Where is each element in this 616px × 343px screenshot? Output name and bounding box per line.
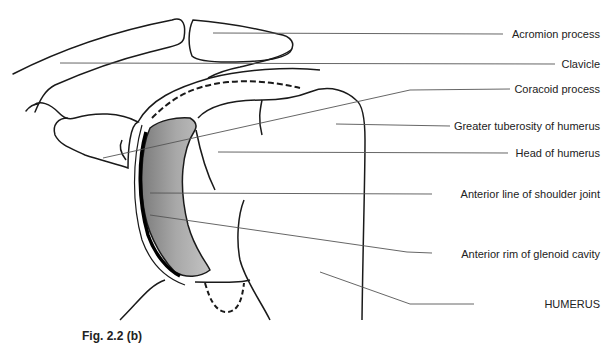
label-humerus: HUMERUS [544, 298, 600, 310]
leader-lines [60, 33, 555, 304]
label-anterior-line-shoulder-joint: Anterior line of shoulder joint [461, 188, 600, 200]
label-clavicle: Clavicle [561, 58, 600, 70]
label-greater-tuberosity: Greater tuberosity of humerus [454, 120, 600, 132]
clavicle-outline [13, 19, 185, 112]
label-acromion-process: Acromion process [512, 28, 600, 40]
label-anterior-rim-glenoid: Anterior rim of glenoid cavity [461, 248, 600, 260]
label-head-of-humerus: Head of humerus [516, 147, 600, 159]
label-coracoid-process: Coracoid process [514, 83, 600, 95]
figure-caption: Fig. 2.2 (b) [82, 329, 142, 343]
capsule-dashed-lower [205, 283, 244, 312]
